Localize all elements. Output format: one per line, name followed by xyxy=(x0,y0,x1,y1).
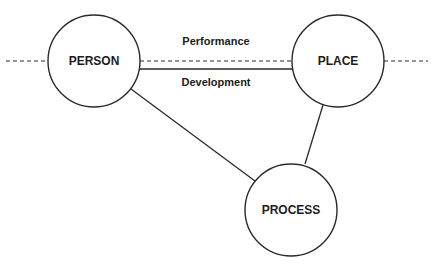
person-process-edge xyxy=(131,89,255,181)
diagram-canvas: PERSON PLACE PROCESS Performance Develop… xyxy=(0,0,433,272)
person-node: PERSON xyxy=(48,15,140,107)
development-label: Development xyxy=(181,76,250,88)
place-label: PLACE xyxy=(318,54,359,68)
place-process-edge xyxy=(305,105,323,164)
process-node: PROCESS xyxy=(245,164,337,256)
performance-label: Performance xyxy=(182,35,249,47)
process-label: PROCESS xyxy=(262,203,321,217)
person-label: PERSON xyxy=(69,54,120,68)
place-node: PLACE xyxy=(292,15,384,107)
